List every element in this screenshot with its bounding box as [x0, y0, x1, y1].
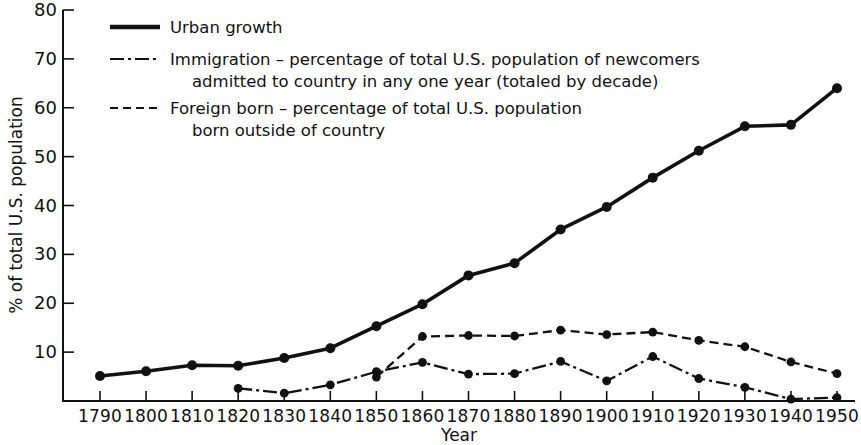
legend-entry-2-line2: admitted to country in any one year (tot… [192, 72, 658, 91]
y-axis-title: % of total U.S. population [6, 96, 26, 314]
data-point-marker [602, 377, 611, 386]
x-tick-marks [100, 391, 837, 401]
y-tick-label: 10 [34, 341, 57, 362]
data-point-marker [372, 373, 381, 382]
data-point-marker [787, 395, 796, 404]
x-tick-label: 1840 [308, 406, 352, 426]
series-line-immigration [238, 357, 837, 400]
data-point-marker [648, 352, 657, 361]
x-tick-label: 1830 [262, 406, 306, 426]
data-point-marker [464, 370, 473, 379]
line-chart: 1020304050607080 17901800181018201830184… [0, 0, 861, 445]
data-point-marker [418, 332, 427, 341]
data-point-marker [740, 121, 750, 131]
x-tick-label: 1810 [170, 406, 214, 426]
y-tick-label: 50 [34, 146, 57, 167]
data-point-marker [510, 332, 519, 341]
data-point-marker [464, 270, 474, 280]
y-tick-label: 20 [34, 292, 57, 313]
y-tick-marks [63, 10, 74, 352]
y-tick-label: 70 [34, 48, 57, 69]
chart-legend: Urban growth Immigration – percentage of… [110, 18, 700, 140]
data-point-marker [417, 299, 427, 309]
data-point-marker [280, 389, 289, 398]
x-tick-label: 1850 [354, 406, 398, 426]
x-tick-label: 1870 [446, 406, 490, 426]
x-tick-label: 1920 [677, 406, 721, 426]
data-point-marker [740, 342, 749, 351]
legend-entry-1-line1: Urban growth [170, 18, 283, 37]
data-point-marker [833, 393, 842, 402]
x-tick-label: 1820 [216, 406, 260, 426]
chart-container: 1020304050607080 17901800181018201830184… [0, 0, 861, 445]
y-tick-label: 60 [34, 97, 57, 118]
x-axis-title: Year [440, 425, 477, 445]
y-tick-label: 80 [34, 0, 57, 20]
legend-entry-3-line2: born outside of country [192, 121, 385, 140]
data-point-marker [740, 383, 749, 392]
data-point-marker [694, 146, 704, 156]
data-point-marker [602, 202, 612, 212]
data-point-marker [833, 369, 842, 378]
legend-entry-3-line1: Foreign born – percentage of total U.S. … [170, 99, 582, 118]
legend-entry-2-line1: Immigration – percentage of total U.S. p… [170, 50, 700, 69]
y-tick-labels: 1020304050607080 [34, 0, 57, 362]
data-point-marker [510, 258, 520, 268]
x-tick-labels: 1790180018101820183018401850186018701880… [78, 406, 859, 426]
data-point-marker [95, 371, 105, 381]
x-tick-label: 1860 [400, 406, 444, 426]
data-point-marker [556, 326, 565, 335]
data-point-marker [325, 343, 335, 353]
data-point-marker [786, 120, 796, 130]
data-point-marker [371, 321, 381, 331]
y-tick-label: 30 [34, 243, 57, 264]
x-tick-label: 1880 [493, 406, 537, 426]
data-point-marker [510, 369, 519, 378]
data-point-marker [648, 328, 657, 337]
data-point-marker [233, 361, 243, 371]
data-point-marker [234, 384, 243, 393]
x-tick-label: 1890 [539, 406, 583, 426]
data-point-marker [418, 358, 427, 367]
data-point-marker [787, 358, 796, 367]
data-point-marker [648, 173, 658, 183]
data-point-marker [141, 366, 151, 376]
data-point-marker [556, 357, 565, 366]
y-tick-label: 40 [34, 195, 57, 216]
data-point-marker [694, 374, 703, 383]
data-point-marker [694, 336, 703, 345]
data-point-marker [602, 330, 611, 339]
data-point-marker [556, 224, 566, 234]
data-point-marker [832, 83, 842, 93]
x-tick-label: 1900 [585, 406, 629, 426]
data-point-marker [464, 331, 473, 340]
x-tick-label: 1910 [631, 406, 675, 426]
x-tick-label: 1800 [124, 406, 168, 426]
data-point-marker [326, 380, 335, 389]
data-point-marker [187, 360, 197, 370]
x-tick-label: 1940 [769, 406, 813, 426]
data-point-marker [279, 353, 289, 363]
x-tick-label: 1790 [78, 406, 122, 426]
x-tick-label: 1950 [815, 406, 859, 426]
x-tick-label: 1930 [723, 406, 767, 426]
